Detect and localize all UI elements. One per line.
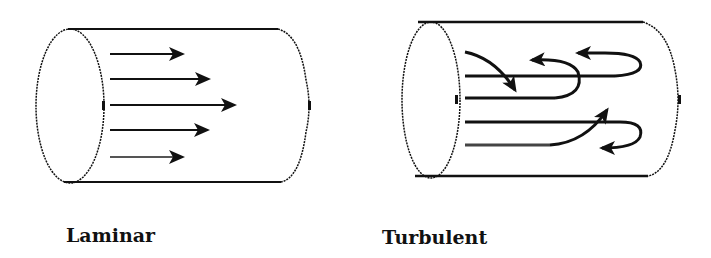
turbulent-flow-lines xyxy=(465,52,641,148)
laminar-flow-arrows xyxy=(110,54,234,157)
flow-diagram xyxy=(0,0,711,258)
turbulent-label: Turbulent xyxy=(382,226,487,248)
turbulent-pipe xyxy=(402,22,681,178)
laminar-label: Laminar xyxy=(66,224,155,246)
